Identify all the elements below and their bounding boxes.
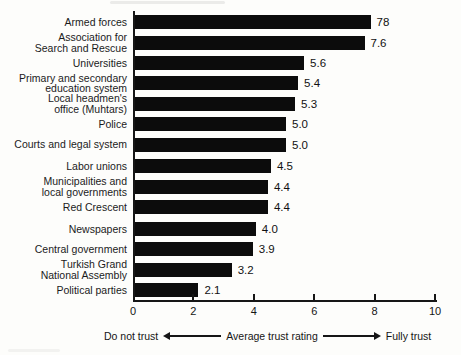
bar <box>135 159 271 173</box>
category-label: Local headmen'soffice (Muhtars) <box>0 93 135 114</box>
x-tick-label: 4 <box>242 305 266 317</box>
bar-row: Primary and secondaryeducation system5.4 <box>0 73 461 93</box>
x-tick-label: 8 <box>363 305 387 317</box>
bar-row: Police5.0 <box>0 114 461 134</box>
category-label: Primary and secondaryeducation system <box>0 73 135 94</box>
category-label: Newspapers <box>0 224 135 235</box>
bar-row: Newspapers4.0 <box>0 219 461 239</box>
y-axis-line <box>133 11 135 302</box>
right-arrow <box>323 332 381 340</box>
bar <box>135 242 253 256</box>
x-tick-label: 0 <box>121 305 145 317</box>
bar-zone: 4.4 <box>135 200 461 214</box>
bar-rows: Armed forces78Association forSearch and … <box>0 12 461 300</box>
value-label: 4.0 <box>262 223 278 235</box>
min-label: Do not trust <box>104 330 158 342</box>
arrow-right-icon <box>374 332 381 340</box>
bar-row: Universities5.6 <box>0 53 461 73</box>
category-label: Political parties <box>0 285 135 296</box>
max-label: Fully trust <box>386 330 432 342</box>
bar <box>135 36 365 50</box>
bar-zone: 5.0 <box>135 138 461 152</box>
value-label: 4.5 <box>277 160 293 172</box>
x-tick-label: 10 <box>423 305 447 317</box>
x-tick <box>192 294 194 300</box>
value-label: 3.2 <box>238 264 254 276</box>
x-tick-label: 6 <box>302 305 326 317</box>
bar-row: Central government3.9 <box>0 239 461 259</box>
bar <box>135 117 286 131</box>
bar-row: Labor unions4.5 <box>0 156 461 176</box>
x-tick <box>374 294 376 300</box>
bar <box>135 15 371 29</box>
scan-artifact-top <box>110 1 225 4</box>
bar <box>135 97 295 111</box>
x-tick <box>253 294 255 300</box>
value-label: 3.9 <box>259 243 275 255</box>
bar <box>135 283 198 297</box>
bar-row: Political parties2.1 <box>0 280 461 300</box>
value-label: 5.3 <box>301 98 317 110</box>
bar-zone: 5.6 <box>135 56 461 70</box>
x-axis-title: Average trust rating <box>226 330 317 342</box>
x-tick-label: 2 <box>181 305 205 317</box>
bar-zone: 5.4 <box>135 76 461 90</box>
arrow-left-icon <box>163 332 170 340</box>
value-label: 4.4 <box>274 181 290 193</box>
bar-zone: 3.2 <box>135 263 461 277</box>
category-label: Labor unions <box>0 161 135 172</box>
bar-row: Local headmen'soffice (Muhtars)5.3 <box>0 94 461 114</box>
trust-rating-bar-chart: Armed forces78Association forSearch and … <box>0 0 461 355</box>
category-label: Courts and legal system <box>0 139 135 150</box>
x-tick <box>313 294 315 300</box>
bar <box>135 222 256 236</box>
x-tick <box>434 294 436 300</box>
x-axis-legend: Do not trust Average trust rating Fully … <box>104 329 431 343</box>
bar-zone: 4.5 <box>135 159 461 173</box>
category-label: Association forSearch and Rescue <box>0 32 135 53</box>
bar-row: Armed forces78 <box>0 12 461 32</box>
x-axis-line <box>133 300 437 302</box>
bar <box>135 138 286 152</box>
bar-row: Courts and legal system5.0 <box>0 134 461 154</box>
category-label: Armed forces <box>0 17 135 28</box>
value-label: 5.0 <box>292 118 308 130</box>
bar-row: Municipalities andlocal governments4.4 <box>0 177 461 197</box>
bar-row: Red Crescent4.4 <box>0 197 461 217</box>
bar-zone: 7.6 <box>135 36 461 50</box>
bar-zone: 3.9 <box>135 242 461 256</box>
value-label: 5.4 <box>304 77 320 89</box>
bar-row: Turkish GrandNational Assembly3.2 <box>0 260 461 280</box>
value-label: 7.6 <box>371 37 387 49</box>
scan-artifact-bottom <box>8 349 60 352</box>
value-label: 78 <box>377 16 390 28</box>
bar <box>135 200 268 214</box>
bar <box>135 56 304 70</box>
value-label: 4.4 <box>274 201 290 213</box>
bar <box>135 263 232 277</box>
bar <box>135 76 298 90</box>
bar-zone: 5.0 <box>135 117 461 131</box>
left-arrow <box>163 332 221 340</box>
category-label: Municipalities andlocal governments <box>0 176 135 197</box>
category-label: Red Crescent <box>0 202 135 213</box>
bar-zone: 2.1 <box>135 283 461 297</box>
bar-zone: 4.0 <box>135 222 461 236</box>
value-label: 5.6 <box>310 57 326 69</box>
bar-zone: 4.4 <box>135 180 461 194</box>
value-label: 5.0 <box>292 139 308 151</box>
bar-zone: 78 <box>135 15 461 29</box>
bar-zone: 5.3 <box>135 97 461 111</box>
bar-row: Association forSearch and Rescue7.6 <box>0 32 461 52</box>
category-label: Central government <box>0 244 135 255</box>
value-label: 2.1 <box>204 284 220 296</box>
category-label: Turkish GrandNational Assembly <box>0 259 135 280</box>
category-label: Universities <box>0 58 135 69</box>
bar <box>135 180 268 194</box>
category-label: Police <box>0 119 135 130</box>
